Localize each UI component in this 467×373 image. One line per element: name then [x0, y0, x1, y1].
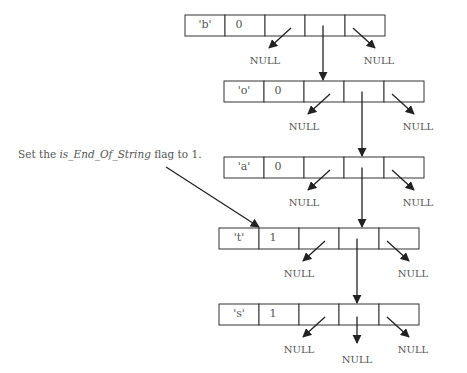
null-label: NULL: [398, 268, 429, 279]
node-cell: [384, 157, 424, 178]
null-label: NULL: [364, 55, 395, 66]
null-label: NULL: [342, 354, 373, 365]
null-label: NULL: [398, 344, 429, 355]
node-char: 's': [233, 307, 245, 320]
trie-node: 'a'0NULLNULL: [224, 157, 434, 227]
node-char: 'o': [238, 84, 251, 97]
null-label: NULL: [289, 197, 320, 208]
annotation-text: Set the is_End_Of_String flag to 1.: [18, 148, 201, 161]
null-label: NULL: [250, 55, 281, 66]
node-cell: [339, 304, 379, 325]
node-cell: [345, 15, 385, 36]
node-cell: [264, 81, 304, 102]
null-label: NULL: [403, 121, 434, 132]
node-cell: [259, 228, 299, 249]
node-flag: 1: [270, 231, 277, 244]
null-label: NULL: [284, 268, 315, 279]
node-char: 'a': [238, 160, 251, 173]
node-cell: [379, 304, 419, 325]
node-cell: [344, 157, 384, 178]
node-flag: 0: [275, 160, 282, 173]
null-label: NULL: [284, 344, 315, 355]
node-flag: 1: [270, 307, 277, 320]
null-label: NULL: [403, 197, 434, 208]
trie-node: 's'1NULLNULLNULL: [219, 304, 429, 365]
node-char: 'b': [198, 18, 211, 31]
trie-node: 'b'0NULLNULL: [185, 15, 395, 80]
node-cell: [225, 15, 265, 36]
node-flag: 0: [236, 18, 243, 31]
node-cell: [384, 81, 424, 102]
node-char: 't': [234, 231, 244, 244]
node-flag: 0: [275, 84, 282, 97]
node-cell: [264, 157, 304, 178]
node-cell: [379, 228, 419, 249]
trie-node: 't'1NULLNULL: [219, 228, 429, 303]
node-cell: [305, 15, 345, 36]
node-cell: [344, 81, 384, 102]
trie-node: 'o'0NULLNULL: [224, 81, 434, 156]
trie-diagram: Set the is_End_Of_String flag to 1. 'b'0…: [0, 0, 467, 373]
node-cell: [259, 304, 299, 325]
node-cell: [339, 228, 379, 249]
null-label: NULL: [289, 121, 320, 132]
